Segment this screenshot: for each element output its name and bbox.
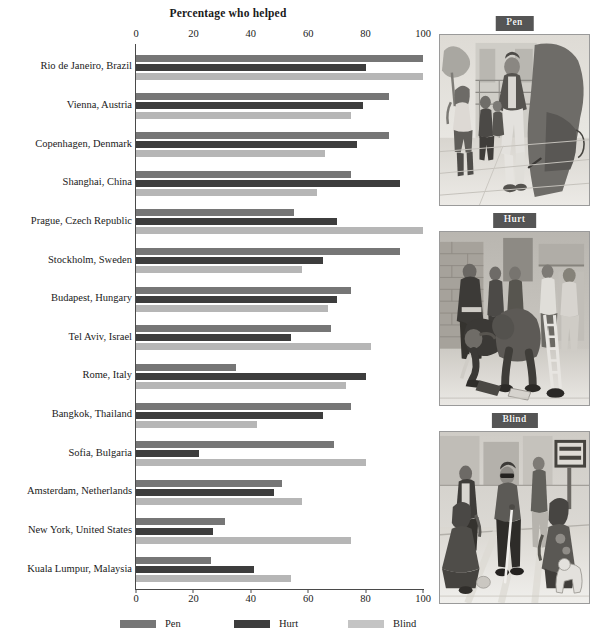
y-axis-category-labels: Rio de Janeiro, BrazilVienna, AustriaCop… [2, 47, 132, 588]
y-axis-category-label: Bangkok, Thailand [4, 408, 132, 419]
legend-item-hurt[interactable]: Hurt [234, 618, 298, 629]
bar-blind [136, 382, 346, 389]
blind-scene-illustration [439, 431, 590, 604]
plot-area [136, 47, 423, 588]
grouped-bar-chart: Percentage who helped 020406080100 02040… [0, 0, 432, 643]
bar-pen [136, 557, 211, 564]
bar-group [136, 132, 423, 157]
bar-pen [136, 55, 423, 62]
bar-group [136, 209, 423, 234]
x-axis-ticks-bottom: 020406080100 [136, 593, 423, 607]
legend-swatch-icon [234, 620, 270, 628]
legend-label: Blind [393, 618, 416, 629]
bar-hurt [136, 64, 366, 71]
bar-hurt [136, 528, 213, 535]
bar-pen [136, 132, 389, 139]
bar-hurt [136, 141, 357, 148]
y-axis-category-label: New York, United States [4, 524, 132, 535]
bar-hurt [136, 450, 199, 457]
x-tick-label: 80 [360, 593, 371, 604]
bar-hurt [136, 334, 291, 341]
bar-blind [136, 227, 423, 234]
legend-label: Hurt [279, 618, 298, 629]
x-tick-label: 100 [415, 593, 431, 604]
panel-tag-label: Blind [491, 413, 537, 428]
bar-group [136, 441, 423, 466]
bar-blind [136, 498, 302, 505]
legend-label: Pen [165, 618, 181, 629]
hurt-scene-illustration [439, 231, 590, 406]
bar-pen [136, 441, 334, 448]
bar-pen [136, 518, 225, 525]
bar-hurt [136, 257, 323, 264]
bar-group [136, 557, 423, 582]
bar-pen [136, 209, 294, 216]
bar-blind [136, 575, 291, 582]
bar-blind [136, 73, 423, 80]
bar-pen [136, 171, 351, 178]
x-tick-label: 80 [360, 28, 371, 39]
illustration-panel-blind: Blind [436, 413, 593, 609]
bar-group [136, 93, 423, 118]
bar-group [136, 364, 423, 389]
y-axis-category-label: Amsterdam, Netherlands [4, 485, 132, 496]
bar-hurt [136, 373, 366, 380]
bar-hurt [136, 489, 274, 496]
y-axis-category-label: Budapest, Hungary [4, 292, 132, 303]
legend-item-blind[interactable]: Blind [348, 618, 416, 629]
chart-legend: PenHurtBlind [120, 618, 432, 634]
bar-hurt [136, 102, 363, 109]
bar-hurt [136, 566, 254, 573]
y-axis-category-label: Rome, Italy [4, 369, 132, 380]
bar-blind [136, 305, 328, 312]
legend-swatch-icon [348, 620, 384, 628]
x-tick-label: 40 [246, 28, 257, 39]
legend-item-pen[interactable]: Pen [120, 618, 181, 629]
y-axis-category-label: Prague, Czech Republic [4, 215, 132, 226]
legend-swatch-icon [120, 620, 156, 628]
x-tick-label: 60 [303, 593, 314, 604]
x-tick-label: 0 [133, 593, 138, 604]
bar-group [136, 55, 423, 80]
bar-blind [136, 150, 325, 157]
bar-group [136, 325, 423, 350]
bar-blind [136, 537, 351, 544]
x-tick-label: 0 [133, 28, 138, 39]
bar-hurt [136, 180, 400, 187]
y-axis-category-label: Copenhagen, Denmark [4, 138, 132, 149]
bar-pen [136, 248, 400, 255]
panel-tag-label: Hurt [493, 213, 537, 228]
bar-blind [136, 459, 366, 466]
x-tick-label: 60 [303, 28, 314, 39]
bar-hurt [136, 296, 337, 303]
y-axis-category-label: Shanghai, China [4, 176, 132, 187]
bar-group [136, 403, 423, 428]
y-axis-category-label: Kuala Lumpur, Malaysia [4, 563, 132, 574]
y-axis-category-label: Tel Aviv, Israel [4, 331, 132, 342]
y-axis-category-label: Vienna, Austria [4, 99, 132, 110]
y-axis-category-label: Stockholm, Sweden [4, 254, 132, 265]
bar-blind [136, 343, 371, 350]
bar-hurt [136, 412, 323, 419]
bar-group [136, 518, 423, 543]
panel-tag-label: Pen [495, 16, 534, 31]
chart-title: Percentage who helped [0, 7, 432, 19]
bar-blind [136, 189, 317, 196]
bar-pen [136, 287, 351, 294]
y-axis-category-label: Rio de Janeiro, Brazil [4, 60, 132, 71]
bar-blind [136, 266, 302, 273]
bar-blind [136, 421, 257, 428]
bar-group [136, 171, 423, 196]
x-tick-label: 20 [188, 593, 199, 604]
bar-pen [136, 325, 331, 332]
x-tick-label: 20 [188, 28, 199, 39]
illustration-panel-pen: Pen [436, 16, 593, 212]
bar-group [136, 248, 423, 273]
pen-scene-illustration [439, 34, 590, 206]
bar-pen [136, 480, 282, 487]
illustration-panel-hurt: Hurt [436, 213, 593, 411]
x-tick-label: 40 [246, 593, 257, 604]
figure-root: Percentage who helped 020406080100 02040… [0, 0, 597, 643]
bar-pen [136, 403, 351, 410]
x-axis-ticks-top: 020406080100 [136, 28, 423, 42]
